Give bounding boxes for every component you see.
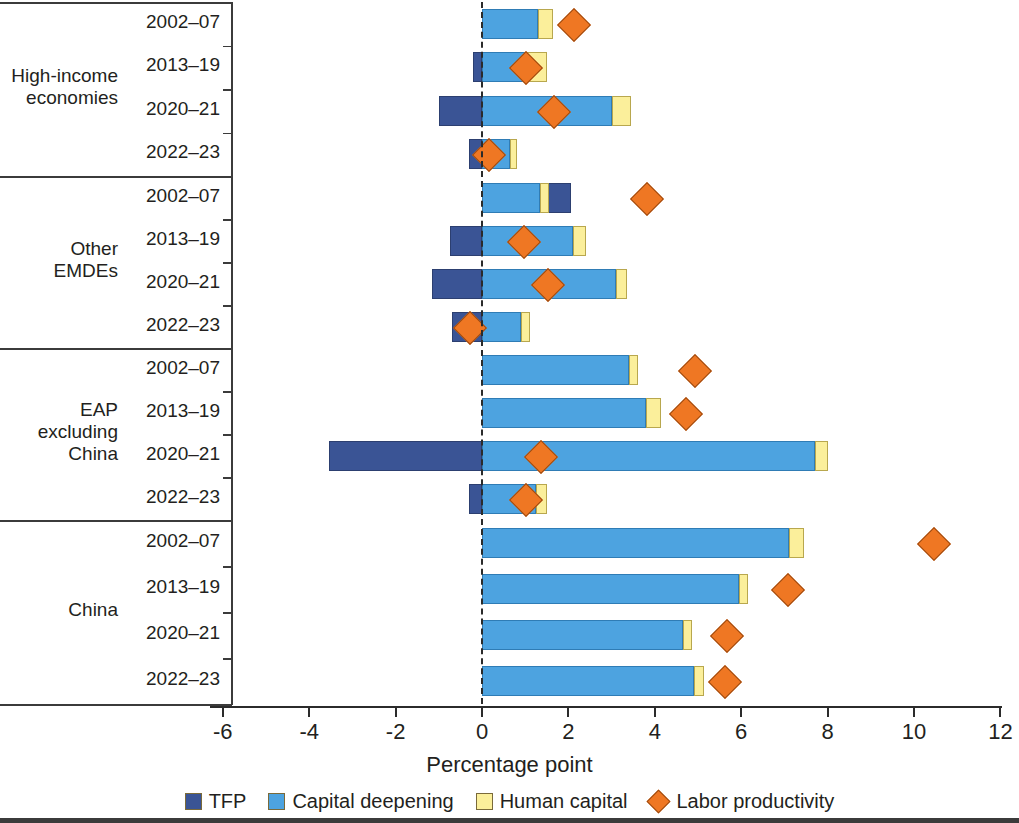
bar-segment-tfp xyxy=(450,226,482,256)
period-label: 2002–07 xyxy=(100,530,220,552)
legend-swatch-icon xyxy=(268,793,285,810)
period-label: 2022–23 xyxy=(100,486,220,508)
bar-segment-tfp xyxy=(439,96,482,126)
bar-segment-human-capital xyxy=(538,9,553,39)
period-label: 2013–19 xyxy=(100,576,220,598)
bar-segment-capital-deepening xyxy=(482,398,646,428)
row-tick xyxy=(223,219,232,221)
axis-tick xyxy=(999,706,1001,717)
axis-tick-label: 0 xyxy=(476,719,488,745)
axis-tick xyxy=(740,706,742,717)
period-label: 2002–07 xyxy=(100,11,220,33)
axis-tick xyxy=(827,706,829,717)
row-tick xyxy=(223,46,232,48)
period-label: 2013–19 xyxy=(100,54,220,76)
chart-legend: TFPCapital deepeningHuman capitalLabor p… xyxy=(0,790,1019,813)
x-axis-label: Percentage point xyxy=(0,752,1019,778)
x-axis: -6-4-2024681012 xyxy=(0,706,1019,756)
bar-segment-capital-deepening xyxy=(482,312,521,342)
period-label: 2020–21 xyxy=(100,271,220,293)
axis-tick-label: 6 xyxy=(735,719,747,745)
row-tick xyxy=(223,612,232,614)
labor-productivity-marker xyxy=(708,665,742,699)
period-label: 2020–21 xyxy=(100,98,220,120)
period-label: 2020–21 xyxy=(100,622,220,644)
axis-tick xyxy=(567,706,569,717)
row-tick xyxy=(223,89,232,91)
bar-segment-capital-deepening xyxy=(482,9,538,39)
labor-productivity-marker xyxy=(678,354,712,388)
axis-tick xyxy=(481,706,483,717)
bar-segment-human-capital xyxy=(510,139,516,169)
period-label: 2022–23 xyxy=(100,668,220,690)
bar-segment-human-capital xyxy=(789,528,804,558)
bar-segment-capital-deepening xyxy=(482,528,789,558)
labor-productivity-marker xyxy=(917,527,951,561)
legend-item-human-capital[interactable]: Human capital xyxy=(476,790,628,813)
labor-productivity-marker xyxy=(557,8,591,42)
bar-segment-human-capital xyxy=(612,96,631,126)
axis-tick xyxy=(395,706,397,717)
period-label: 2022–23 xyxy=(100,141,220,163)
bar-segment-human-capital xyxy=(683,620,692,650)
axis-tick-label: 8 xyxy=(821,719,833,745)
axis-tick-label: 2 xyxy=(562,719,574,745)
bar-segment-human-capital xyxy=(739,574,748,604)
labor-productivity-marker xyxy=(771,573,805,607)
bar-segment-human-capital xyxy=(646,398,661,428)
zero-reference-line xyxy=(481,2,483,704)
axis-tick xyxy=(654,706,656,717)
bar-segment-human-capital xyxy=(616,269,627,299)
legend-diamond-icon xyxy=(646,789,670,813)
row-tick xyxy=(223,434,232,436)
axis-tick xyxy=(222,706,224,717)
row-tick xyxy=(223,262,232,264)
axis-tick-label: 4 xyxy=(649,719,661,745)
legend-label: Labor productivity xyxy=(677,790,835,813)
axis-tick-label: -4 xyxy=(299,719,319,745)
legend-item-labor-productivity[interactable]: Labor productivity xyxy=(650,790,835,813)
axis-tick xyxy=(308,706,310,717)
bar-segment-human-capital xyxy=(573,226,586,256)
axis-tick xyxy=(913,706,915,717)
bar-segment-human-capital xyxy=(540,183,549,213)
bar-segment-capital-deepening xyxy=(482,183,540,213)
productivity-decomposition-chart: -6-4-2024681012 Percentage point TFPCapi… xyxy=(0,0,1019,823)
period-label: 2013–19 xyxy=(100,228,220,250)
labor-productivity-marker xyxy=(630,182,664,216)
bar-segment-capital-deepening xyxy=(482,620,683,650)
period-label: 2022–23 xyxy=(100,314,220,336)
period-label: 2002–07 xyxy=(100,185,220,207)
legend-label: Capital deepening xyxy=(292,790,453,813)
period-label: 2002–07 xyxy=(100,357,220,379)
axis-tick-label: -2 xyxy=(386,719,406,745)
bar-segment-tfp xyxy=(432,269,482,299)
axis-line xyxy=(210,706,1003,708)
row-tick xyxy=(223,477,232,479)
bar-segment-human-capital xyxy=(521,312,530,342)
bar-segment-human-capital xyxy=(629,355,638,385)
legend-item-capital-deepening[interactable]: Capital deepening xyxy=(268,790,453,813)
bar-segment-capital-deepening xyxy=(482,355,629,385)
period-label: 2013–19 xyxy=(100,400,220,422)
row-tick xyxy=(223,658,232,660)
legend-item-tfp[interactable]: TFP xyxy=(185,790,247,813)
row-tick xyxy=(223,305,232,307)
axis-tick-label: -6 xyxy=(213,719,233,745)
bar-segment-capital-deepening xyxy=(482,574,739,604)
labor-productivity-marker xyxy=(710,619,744,653)
row-tick xyxy=(223,391,232,393)
bar-segment-tfp xyxy=(329,441,482,471)
legend-swatch-icon xyxy=(476,793,493,810)
legend-label: TFP xyxy=(209,790,247,813)
bar-segment-capital-deepening xyxy=(482,666,694,696)
axis-tick-label: 12 xyxy=(988,719,1012,745)
legend-label: Human capital xyxy=(500,790,628,813)
legend-swatch-icon xyxy=(185,793,202,810)
axis-tick-label: 10 xyxy=(902,719,926,745)
bar-segment-human-capital xyxy=(694,666,705,696)
row-tick xyxy=(223,133,232,135)
group-label-3: China xyxy=(0,599,118,621)
bar-segment-human-capital xyxy=(815,441,828,471)
period-label: 2020–21 xyxy=(100,443,220,465)
